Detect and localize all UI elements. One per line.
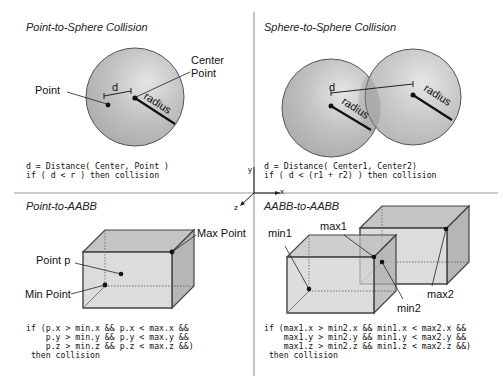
min2-label: min2 <box>397 302 421 314</box>
max1-label: max1 <box>320 220 347 232</box>
center2-dot <box>411 93 416 98</box>
aabb-box-1 <box>287 235 396 313</box>
point-label: Point <box>35 84 60 96</box>
collision-diagram: Point-to-Sphere Collision d radius Cente… <box>0 0 503 386</box>
code-line: then collision <box>264 350 338 360</box>
max2-label: max2 <box>427 288 454 300</box>
center-label-line2: Point <box>191 67 216 79</box>
d-label: d <box>112 81 118 93</box>
d-label: d <box>329 81 335 93</box>
center1-dot <box>329 104 334 109</box>
z-axis-label: z <box>234 203 238 212</box>
code-line: if ( d < (r1 + r2) ) then collision <box>264 170 437 180</box>
min1-label: min1 <box>268 227 292 239</box>
y-axis-label: y <box>248 165 252 174</box>
panel-aabb-to-aabb: AABB-to-AABB min1 max1 min2 <box>263 200 471 360</box>
panel-point-to-aabb: Point-to-AABB Max Point Point p Min Poin… <box>25 200 246 360</box>
min-point-label: Min Point <box>25 288 71 300</box>
code-line: then collision <box>26 350 100 360</box>
code-line: if ( d < r ) then collision <box>26 170 159 180</box>
center-label-line1: Center <box>191 54 224 66</box>
point-dot <box>106 103 111 108</box>
panel-title: Point-to-Sphere Collision <box>26 21 148 33</box>
point-p-label: Point p <box>36 254 70 266</box>
panel-title: AABB-to-AABB <box>263 200 339 212</box>
panel-title: Sphere-to-Sphere Collision <box>264 21 396 33</box>
panel-point-to-sphere: Point-to-Sphere Collision d radius Cente… <box>26 21 224 180</box>
panel-sphere-to-sphere: Sphere-to-Sphere Collision d radius radi… <box>264 21 461 180</box>
max-point-label: Max Point <box>197 227 246 239</box>
panel-title: Point-to-AABB <box>26 200 97 212</box>
x-axis-label: x <box>280 187 284 196</box>
